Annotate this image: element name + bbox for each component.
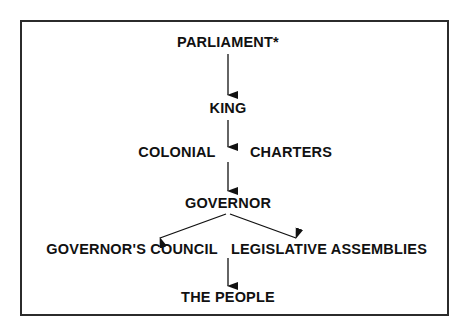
node-colonial: COLONIAL [138, 145, 215, 160]
node-governor: GOVERNOR [185, 196, 271, 211]
node-charters: CHARTERS [250, 145, 332, 160]
diagram-connectors [0, 0, 466, 334]
arrow-governor-to-council [160, 214, 226, 238]
node-legislative-assemblies: LEGISLATIVE ASSEMBLIES [231, 242, 427, 257]
node-parliament: PARLIAMENT* [177, 35, 279, 50]
arrow-governor-to-assemblies [230, 214, 296, 238]
diagram-canvas: PARLIAMENT* KING COLONIAL CHARTERS GOVER… [0, 0, 466, 334]
node-king: KING [209, 101, 246, 116]
node-governors-council: GOVERNOR'S COUNCIL [46, 242, 217, 257]
node-the-people: THE PEOPLE [181, 290, 275, 305]
